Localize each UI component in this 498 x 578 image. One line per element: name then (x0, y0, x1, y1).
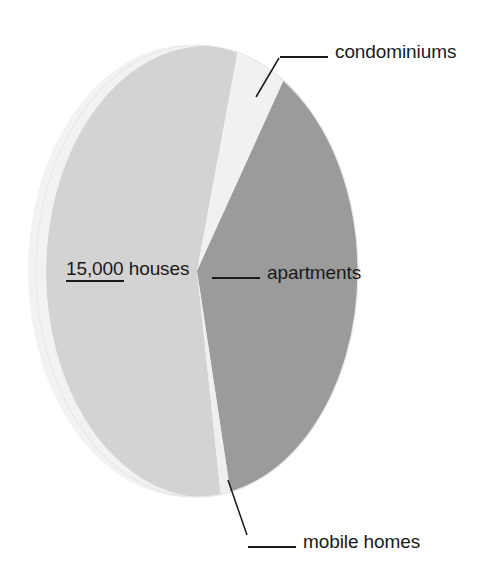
slice-name-condominiums: condominiums (335, 41, 456, 62)
slice-value-houses: 15,000 (66, 258, 124, 282)
slice-label-condominiums: condominiums (280, 38, 456, 61)
slice-name-mobile-homes: mobile homes (303, 531, 420, 552)
answer-blank-mobile-homes[interactable] (248, 528, 296, 548)
slice-label-houses: 15,000 houses (66, 259, 189, 278)
slice-name-houses: houses (129, 258, 190, 279)
pie-chart-figure: 15,000 houses apartments condominiums mo… (0, 0, 498, 578)
slice-name-apartments: apartments (267, 262, 361, 283)
answer-blank-condominiums[interactable] (280, 38, 328, 58)
pie-chart-graphic (0, 0, 498, 578)
slice-label-apartments: apartments (212, 259, 361, 282)
slice-label-mobile-homes: mobile homes (248, 528, 420, 551)
answer-blank-apartments[interactable] (212, 259, 260, 279)
